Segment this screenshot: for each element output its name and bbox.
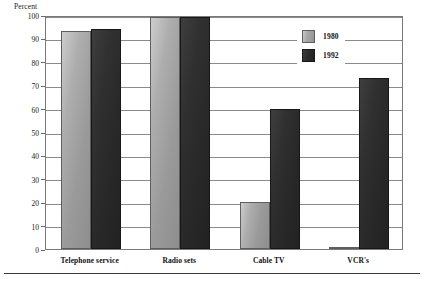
legend-item-1992[interactable]: 1992 bbox=[302, 49, 339, 62]
y-tick-label: 70 bbox=[9, 82, 39, 91]
y-tick-label: 60 bbox=[9, 105, 39, 114]
y-tick-mark bbox=[41, 179, 45, 180]
bar-telephone-service-1980[interactable] bbox=[61, 31, 91, 249]
y-tick-mark bbox=[41, 250, 45, 251]
plot-area bbox=[45, 16, 403, 250]
x-label-vcr-s: VCR's bbox=[347, 256, 369, 265]
x-label-cable-tv: Cable TV bbox=[253, 256, 285, 265]
bar-cable-tv-1980[interactable] bbox=[240, 202, 270, 249]
y-tick-mark bbox=[41, 62, 45, 63]
bar-chart-figure: Percent 0102030405060708090100 1980 1992… bbox=[0, 0, 424, 283]
y-tick-label: 100 bbox=[9, 12, 39, 21]
bar-radio-sets-1992[interactable] bbox=[180, 17, 210, 249]
y-tick-mark bbox=[41, 39, 45, 40]
footer-caption bbox=[6, 276, 420, 283]
y-tick-label: 20 bbox=[9, 199, 39, 208]
bar-telephone-service-1992[interactable] bbox=[91, 29, 121, 249]
y-tick-label: 10 bbox=[9, 222, 39, 231]
bar-cable-tv-1992[interactable] bbox=[270, 109, 300, 249]
bar-radio-sets-1980[interactable] bbox=[150, 17, 180, 249]
x-label-telephone-service: Telephone service bbox=[61, 256, 119, 265]
y-tick-mark bbox=[41, 203, 45, 204]
bar-group bbox=[150, 17, 210, 249]
footer-divider bbox=[4, 273, 420, 274]
bar-group bbox=[240, 17, 300, 249]
y-tick-label: 0 bbox=[9, 246, 39, 255]
y-tick-mark bbox=[41, 226, 45, 227]
legend-item-1980[interactable]: 1980 bbox=[302, 30, 339, 43]
y-tick-label: 40 bbox=[9, 152, 39, 161]
y-axis-unit-label: Percent bbox=[14, 2, 37, 11]
y-tick-mark bbox=[41, 16, 45, 17]
y-tick-label: 90 bbox=[9, 35, 39, 44]
chart-legend: 1980 1992 bbox=[297, 26, 345, 66]
legend-label-1980: 1980 bbox=[323, 32, 339, 41]
y-tick-label: 50 bbox=[9, 129, 39, 138]
bar-vcr-s-1992[interactable] bbox=[359, 78, 389, 249]
y-tick-mark bbox=[41, 133, 45, 134]
legend-swatch-1980-icon bbox=[302, 30, 315, 43]
y-tick-mark bbox=[41, 109, 45, 110]
y-tick-label: 80 bbox=[9, 58, 39, 67]
x-label-radio-sets: Radio sets bbox=[162, 256, 196, 265]
legend-label-1992: 1992 bbox=[323, 51, 339, 60]
legend-swatch-1992-icon bbox=[302, 49, 315, 62]
bar-vcr-s-1980[interactable] bbox=[329, 247, 359, 249]
bar-group bbox=[61, 17, 121, 249]
y-tick-mark bbox=[41, 86, 45, 87]
y-tick-mark bbox=[41, 156, 45, 157]
y-tick-label: 30 bbox=[9, 175, 39, 184]
